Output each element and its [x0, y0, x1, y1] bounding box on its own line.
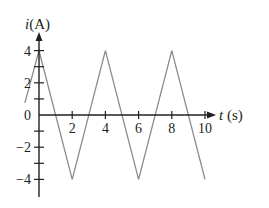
x-axis-label: t (s) [219, 107, 243, 124]
y-axis-label: i(A) [25, 16, 50, 33]
y-tick-label: 0 [24, 108, 31, 123]
y-tick-label: −2 [16, 140, 31, 155]
x-tick-label: 6 [135, 121, 142, 136]
x-axis-unit: (s) [223, 107, 243, 124]
axes: 246810420−2−4 [16, 32, 216, 197]
x-tick-label: 2 [69, 121, 76, 136]
y-tick-label: 2 [24, 76, 31, 91]
y-tick-label: −4 [16, 172, 31, 187]
x-tick-label: 4 [102, 121, 109, 136]
y-axis-unit: (A) [29, 16, 50, 33]
axis-labels: i(A) t (s) [25, 16, 243, 124]
x-axis-arrow-icon [207, 112, 216, 119]
x-tick-label: 10 [198, 121, 212, 136]
y-axis-arrow-icon [36, 32, 43, 41]
triangle-wave-chart: 246810420−2−4 i(A) t (s) [0, 0, 269, 208]
y-tick-label: 4 [24, 44, 31, 59]
x-tick-label: 8 [168, 121, 175, 136]
